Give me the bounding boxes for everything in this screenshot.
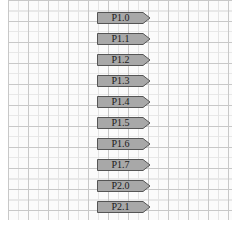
- net-label-text: P1.0: [97, 12, 144, 24]
- net-label-p1-2[interactable]: P1.2: [97, 54, 151, 66]
- net-label-p1-6[interactable]: P1.6: [97, 138, 151, 150]
- net-label-text: P1.1: [97, 33, 144, 45]
- net-label-text: P2.1: [97, 201, 144, 213]
- net-label-text: P1.6: [97, 138, 144, 150]
- net-label-text: P1.7: [97, 159, 144, 171]
- net-label-p2-1[interactable]: P2.1: [97, 201, 151, 213]
- net-label-text: P1.3: [97, 75, 144, 87]
- net-label-p1-4[interactable]: P1.4: [97, 96, 151, 108]
- net-label-p1-1[interactable]: P1.1: [97, 33, 151, 45]
- net-label-p1-0[interactable]: P1.0: [97, 12, 151, 24]
- net-label-p1-5[interactable]: P1.5: [97, 117, 151, 129]
- net-label-text: P1.5: [97, 117, 144, 129]
- net-label-p2-0[interactable]: P2.0: [97, 180, 151, 192]
- net-label-p1-7[interactable]: P1.7: [97, 159, 151, 171]
- net-label-text: P1.4: [97, 96, 144, 108]
- net-label-text: P1.2: [97, 54, 144, 66]
- net-label-text: P2.0: [97, 180, 144, 192]
- net-label-p1-3[interactable]: P1.3: [97, 75, 151, 87]
